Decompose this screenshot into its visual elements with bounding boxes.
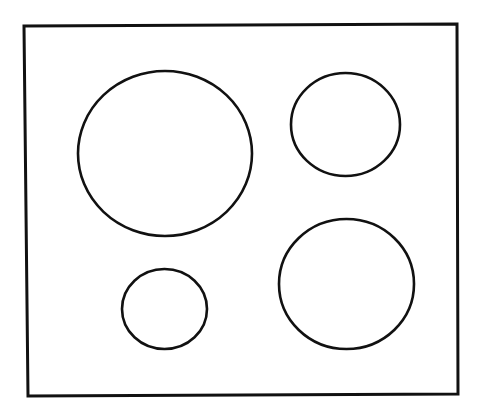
background xyxy=(0,0,480,417)
diagram-canvas xyxy=(0,0,480,417)
